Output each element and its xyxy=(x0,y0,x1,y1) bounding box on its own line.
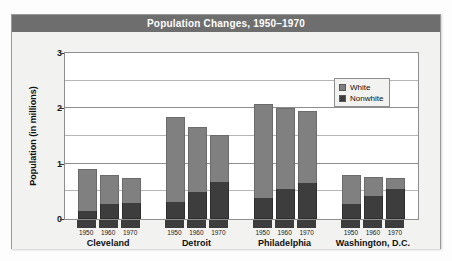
bar-segment-nonwhite xyxy=(166,202,185,219)
bar-stack xyxy=(298,111,317,219)
bar-stack xyxy=(342,175,361,219)
bar-segment-nonwhite xyxy=(342,204,361,219)
x-axis-tick-block xyxy=(363,220,382,228)
bar-stack xyxy=(364,177,383,219)
bar-stack xyxy=(78,169,97,219)
x-axis-tick-blocks xyxy=(64,220,419,228)
bar-segment-white xyxy=(364,177,383,196)
bar-segment-white xyxy=(298,111,317,183)
bar-stack xyxy=(276,108,295,219)
x-axis-year-label: 1950 xyxy=(167,229,181,236)
legend: White Nonwhite xyxy=(334,78,390,107)
bar-segment-white xyxy=(166,117,185,203)
y-axis-label: Population (in millions) xyxy=(26,52,40,220)
chart-title-bar: Population Changes, 1950–1970 xyxy=(12,15,440,32)
x-axis-year-label: 1950 xyxy=(255,229,269,236)
bar-segment-white xyxy=(342,175,361,204)
bar-stack xyxy=(188,127,207,219)
x-axis-group-label: Cleveland xyxy=(87,238,130,248)
x-axis-tick-block xyxy=(341,220,360,228)
bar-segment-nonwhite xyxy=(122,203,141,219)
bar-stack xyxy=(254,104,273,219)
bar-segment-white xyxy=(386,178,405,190)
bar-segment-white xyxy=(276,108,295,189)
bar-segment-nonwhite xyxy=(78,211,97,219)
x-axis-tick-block xyxy=(385,220,404,228)
x-axis-year-label: 1960 xyxy=(366,229,380,236)
x-axis-group-label: Philadelphia xyxy=(258,238,311,248)
chart-body: Population (in millions) 0123 1950196019… xyxy=(12,32,440,249)
x-axis-year-label: 1950 xyxy=(79,229,93,236)
bar-segment-nonwhite xyxy=(254,198,273,219)
bar-segment-nonwhite xyxy=(298,183,317,219)
x-axis-year-label: 1950 xyxy=(344,229,358,236)
x-axis-year-label: 1960 xyxy=(277,229,291,236)
bar-segment-white xyxy=(254,104,273,198)
x-axis-year-label: 1970 xyxy=(388,229,402,236)
chart-figure: Population Changes, 1950–1970 Population… xyxy=(11,14,441,249)
x-axis-year-label: 1960 xyxy=(101,229,115,236)
bar-segment-white xyxy=(188,127,207,193)
bar-segment-nonwhite xyxy=(276,189,295,219)
legend-item-white: White xyxy=(339,82,383,92)
x-axis-tick-block xyxy=(297,220,316,228)
x-axis-group-label: Washington, D.C. xyxy=(336,238,410,248)
page-title: Population Changes, 1950–1970 xyxy=(147,18,305,29)
y-axis-tick-mark xyxy=(60,108,64,109)
bar-stack xyxy=(100,175,119,219)
x-axis-tick-block xyxy=(77,220,96,228)
x-axis-group-label: Detroit xyxy=(182,238,211,248)
x-axis-tick-block xyxy=(99,220,118,228)
bar-stack xyxy=(386,178,405,220)
bar-segment-white xyxy=(210,135,229,182)
bar-stack xyxy=(122,178,141,220)
x-axis-tick-block xyxy=(209,220,228,228)
x-axis-year-label: 1970 xyxy=(211,229,225,236)
legend-swatch-nonwhite-icon xyxy=(339,95,346,102)
bar-segment-white xyxy=(78,169,97,211)
x-axis-year-label: 1960 xyxy=(189,229,203,236)
legend-item-nonwhite: Nonwhite xyxy=(339,93,383,103)
bar-segment-nonwhite xyxy=(364,196,383,219)
bar-segment-nonwhite xyxy=(386,189,405,219)
y-axis-tick-mark xyxy=(60,53,64,54)
y-axis-tick-mark xyxy=(60,164,64,165)
bar-segment-white xyxy=(122,178,141,203)
legend-label-white: White xyxy=(350,83,370,92)
x-axis-tick-block xyxy=(121,220,140,228)
legend-swatch-white-icon xyxy=(339,84,346,91)
x-axis-tick-block xyxy=(187,220,206,228)
bar-stack xyxy=(166,117,185,219)
y-axis-label-text: Population (in millions) xyxy=(28,86,38,186)
chart-page: Population Changes, 1950–1970 Population… xyxy=(0,0,452,261)
bar-stack xyxy=(210,135,229,219)
bar-segment-nonwhite xyxy=(100,204,119,219)
bar-segment-nonwhite xyxy=(188,192,207,219)
legend-label-nonwhite: Nonwhite xyxy=(350,94,383,103)
x-axis-tick-block xyxy=(165,220,184,228)
x-axis-year-label: 1970 xyxy=(123,229,137,236)
x-axis-year-label: 1970 xyxy=(299,229,313,236)
bar-segment-white xyxy=(100,175,119,203)
bar-segment-nonwhite xyxy=(210,182,229,219)
x-axis-tick-block xyxy=(253,220,272,228)
x-axis-tick-block xyxy=(275,220,294,228)
